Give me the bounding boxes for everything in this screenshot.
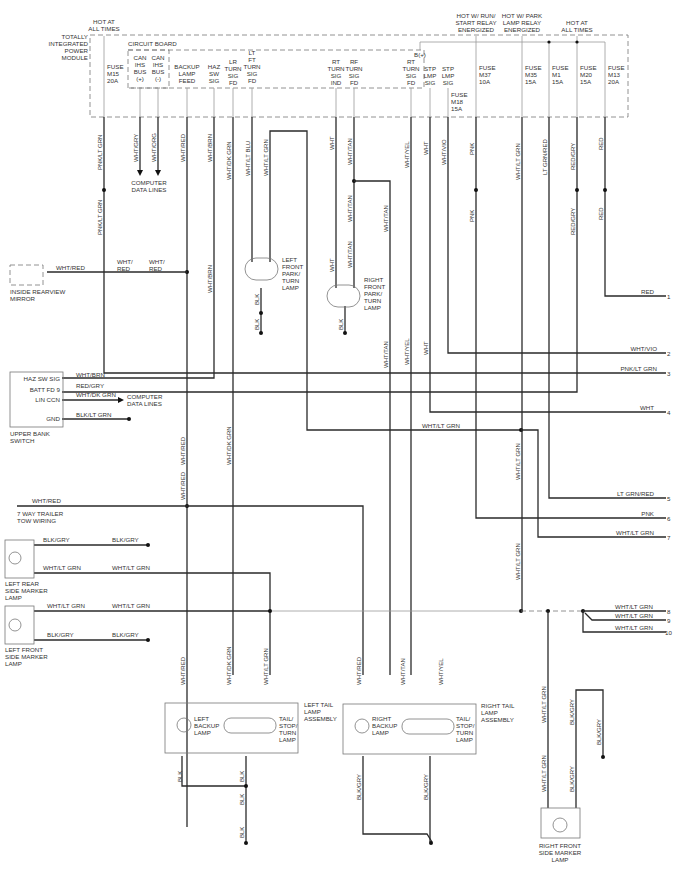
label-wire_labels-wht_slash: WHT/ <box>149 258 165 265</box>
label-wire_labels-lt_grn_red: LT GRN/RED <box>542 139 548 175</box>
label-outputs-1-label: WHT/VIO <box>631 345 658 352</box>
mirror-box <box>10 265 43 285</box>
label-components-left_tail-0: LEFT TAIL <box>304 701 334 708</box>
label-wire_labels-blk_gry: BLK/GRY <box>112 631 139 638</box>
module-name-3: POWER <box>65 47 89 54</box>
label-module-hot_run_start-1: START RELAY <box>455 19 496 26</box>
label-wire_labels-wht_lt_grn: WHT/LT GRN <box>422 422 460 429</box>
label-wire_labels-blk_gry: BLK/GRY <box>423 774 429 800</box>
label-module-pins-3-lines-1: SW <box>209 70 219 77</box>
label-wire_labels-blk_gry: BLK/GRY <box>43 536 70 543</box>
label-components-tail_stop-2: TURN <box>456 729 473 736</box>
label-module-hot_at_all_times_right-1: ALL TIMES <box>561 26 592 33</box>
label-wire_labels-blk: BLK <box>239 827 245 838</box>
label-components-tail_stop-3: LAMP <box>279 736 296 743</box>
label-wire_labels-red_gry: RED/GRY <box>570 143 576 170</box>
label-module-hot_at_all_times_right-0: HOT AT <box>566 19 588 26</box>
label-wire_labels-wht_dk_grn: WHT/DK GRN <box>226 141 232 180</box>
label-components-tail_stop-3: LAMP <box>456 736 473 743</box>
label-wire_labels-wht_red: WHT/RED <box>180 133 186 162</box>
label-outputs-5-label: PNK <box>641 510 655 517</box>
label-wire_labels-red_gry: RED/GRY <box>76 382 104 389</box>
label-components-lf_side-0: LEFT FRONT <box>5 646 43 653</box>
label-wire_labels-blk_gry: BLK/GRY <box>569 699 575 725</box>
label-outputs-4-label: LT GRN/RED <box>617 490 654 497</box>
label-wire_labels-red: RED <box>598 207 604 220</box>
label-module-fuses_right-4-lines-1: M13 <box>608 71 621 78</box>
label-outputs-7-num: 8 <box>667 608 671 615</box>
label-wire_labels-wht_lt_grn: WHT/LT GRN <box>112 564 150 571</box>
label-module-pins-5-lines-4: FD <box>248 77 257 84</box>
output-connectors: RED 1 WHT/VIO 2 PNK/LT GRN 3 WHT 4 LT GR… <box>615 288 672 636</box>
label-wire_labels-wht_yel: WHT/YEL <box>438 658 444 685</box>
label-wire_labels-blk: BLK <box>177 771 183 782</box>
label-components-rf_park-4: LAMP <box>364 304 381 311</box>
label-components-rf_side-0: RIGHT FRONT <box>539 842 581 849</box>
label-module-pins-5-lines-0: LT <box>249 49 256 56</box>
label-module-pins-10-lines-0: STP <box>442 65 454 72</box>
label-components-right_backup-0: RIGHT <box>372 715 391 722</box>
label-components-left_backup-0: LEFT <box>194 715 209 722</box>
label-wire_labels-wht_lt_grn: WHT/LT GRN <box>112 602 150 609</box>
label-wire_labels-wht: WHT <box>329 258 335 272</box>
label-module-pins-7-lines-3: FD <box>350 79 359 86</box>
label-components-right_tail-0: RIGHT TAIL <box>481 702 515 709</box>
label-components-rf_side-1: SIDE MARKER <box>539 849 582 856</box>
label-wire_labels-wht_lt_grn: WHT/LT GRN <box>541 755 547 792</box>
label-module-pins-8-lines-3: FD <box>407 79 416 86</box>
wiring-diagram: TOTALLY INTEGRATED POWER MODULE HOT AT A… <box>0 0 679 873</box>
label-outputs-2-label: PNK/LT GRN <box>620 365 657 372</box>
label-module-pins-4-lines-0: LR <box>229 58 237 65</box>
fuse-m15-label: FUSE <box>107 63 124 70</box>
label-module-pins-0-lines-3: (+) <box>136 75 144 82</box>
label-outputs-5-num: 6 <box>667 515 671 522</box>
label-module-hot_run_start-0: HOT W/ RUN/ <box>456 12 495 19</box>
right-fuses: FUSE M37 10A FUSE M35 15A FUSE M1 15A FU… <box>476 36 625 117</box>
label-components-lf_park-2: PARK/ <box>282 270 300 277</box>
power-module: TOTALLY INTEGRATED POWER MODULE HOT AT A… <box>49 12 628 117</box>
label-components-right_tail-1: LAMP <box>481 709 498 716</box>
label-module-pins-4-lines-3: FD <box>229 79 238 86</box>
pin-labels: CAN IHS BUS (+) CAN IHS BUS (-) BACKUP L… <box>133 49 454 86</box>
label-components-tail_stop-0: TAIL/ <box>279 715 294 722</box>
label-computer_data_lines-1: DATA LINES <box>127 400 162 407</box>
label-wire_labels-wht_org: WHT/ORG <box>151 133 157 162</box>
label-module-pins-1-lines-1: IHS <box>153 61 163 68</box>
label-module-fuses_right-3-lines-0: FUSE <box>580 64 597 71</box>
label-module-hot_run_start-2: ENERGIZED <box>458 26 495 33</box>
label-outputs-6-label: WHT/LT GRN <box>616 529 654 536</box>
label-components-rf_park-1: FRONT <box>364 283 386 290</box>
label-module-pins-4-lines-2: SIG <box>228 72 239 79</box>
label-module-pins-1-lines-2: BUS <box>152 68 165 75</box>
label-wire_labels-wht_tan: WHT/TAN <box>383 205 389 232</box>
label-module-pins-8-lines-0: RT <box>407 58 415 65</box>
hot-label-left-2: ALL TIMES <box>88 25 119 32</box>
label-module-fuses_right-2-lines-0: FUSE <box>552 64 569 71</box>
label-components-left_tail-2: ASSEMBLY <box>304 715 337 722</box>
label-components-tail_stop-1: STOP/ <box>456 722 475 729</box>
label-outputs-7-label: WHT/LT GRN <box>615 603 653 610</box>
bplus-label: B(+) <box>414 51 426 58</box>
label-components-upper_bank_pins-1: BATT FD 9 <box>30 386 61 393</box>
label-module-pins-2-lines-0: BACKUP <box>174 63 199 70</box>
label-wire_labels-red_only: RED <box>117 265 131 272</box>
hot-label-left-1: HOT AT <box>93 18 115 25</box>
label-components-tail_stop-2: TURN <box>279 729 296 736</box>
label-module-pins-5-lines-2: TURN <box>243 63 260 70</box>
label-wire_labels-wht_tan: WHT/TAN <box>400 658 406 685</box>
label-module-pins-7-lines-2: SIG <box>349 72 360 79</box>
rf-side-marker <box>541 808 580 838</box>
label-wire_labels-blk_gry: BLK/GRY <box>47 631 74 638</box>
label-wire_labels-wht_lt_blu: WHT/LT BLU <box>245 141 251 176</box>
label-outputs-4-num: 5 <box>667 495 671 502</box>
label-module-pins-10-lines-1: LMP <box>442 72 455 79</box>
label-module-fuses_right-4-lines-0: FUSE <box>608 64 625 71</box>
label-module-fuses_right-4-lines-2: 20A <box>608 78 620 85</box>
fuse-m15-rating: 20A <box>107 77 119 84</box>
label-module-pins-10-lines-2: SIG <box>443 79 454 86</box>
module-name-4: MODULE <box>62 54 88 61</box>
label-components-lr_side-0: LEFT REAR <box>5 580 39 587</box>
label-wire_labels-wht_brn: WHT/BRN <box>207 134 213 162</box>
wires <box>17 117 666 845</box>
label-wire_labels-wht_lt_grn: WHT/LT GRN <box>515 443 521 480</box>
